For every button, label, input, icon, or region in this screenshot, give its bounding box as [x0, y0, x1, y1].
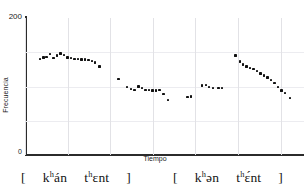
data-point: [59, 52, 61, 54]
transcription-left-word1: khán: [43, 170, 68, 186]
data-point: [263, 74, 265, 76]
vertical-gridline: [281, 18, 282, 155]
data-point: [217, 87, 219, 89]
y-axis-tick-200: 200: [0, 12, 22, 21]
transcription-right-close-bracket: ]: [278, 170, 283, 186]
transcription-right-word2: thɛ́nt: [236, 170, 261, 186]
data-point: [158, 89, 160, 91]
data-point: [155, 89, 157, 91]
data-point: [256, 70, 258, 72]
data-point: [80, 58, 82, 60]
data-point: [245, 65, 247, 67]
data-point: [117, 78, 119, 80]
data-point: [63, 54, 65, 56]
data-point: [289, 97, 291, 99]
data-point: [94, 61, 96, 63]
data-point: [162, 93, 164, 95]
data-point: [66, 56, 68, 58]
data-point: [144, 89, 146, 91]
data-point: [212, 87, 214, 89]
data-point: [234, 54, 236, 56]
data-point: [84, 58, 86, 60]
data-point: [42, 56, 44, 58]
transcription-left-close-bracket: ]: [126, 170, 131, 186]
data-point: [130, 88, 132, 90]
data-point: [167, 99, 169, 101]
data-point: [270, 79, 272, 81]
transcription-right: [ khən thɛ́nt ]: [152, 164, 304, 191]
y-axis-tick-0: 0: [0, 148, 22, 155]
vertical-gridline: [25, 18, 26, 155]
vertical-gridline: [238, 18, 239, 155]
data-point: [91, 60, 93, 62]
data-point: [186, 96, 188, 98]
data-point: [39, 58, 41, 60]
y-axis-title: Frecuencia: [2, 52, 9, 138]
data-point: [280, 89, 282, 91]
vertical-gridline: [110, 18, 111, 155]
data-point: [87, 59, 89, 61]
vertical-gridline: [153, 18, 154, 155]
data-point: [137, 85, 139, 87]
data-point: [73, 58, 75, 60]
transcription-left: [ khán thɛnt ]: [0, 164, 152, 191]
vertical-gridline: [195, 18, 196, 155]
data-point: [77, 58, 79, 60]
transcription-row: [ khán thɛnt ] [ khən thɛ́nt ]: [0, 164, 304, 191]
data-point: [277, 86, 279, 88]
vertical-gridline: [68, 18, 69, 155]
data-point: [148, 89, 150, 91]
data-point: [52, 57, 54, 59]
transcription-right-word1: khən: [195, 170, 220, 186]
data-point: [56, 54, 58, 56]
transcription-left-open-bracket: [: [21, 170, 26, 186]
data-point: [259, 72, 261, 74]
data-point: [151, 89, 153, 91]
data-point: [266, 76, 268, 78]
data-point: [190, 95, 192, 97]
data-point: [133, 89, 135, 91]
data-point: [239, 60, 241, 62]
data-point: [45, 56, 47, 58]
transcription-right-open-bracket: [: [173, 170, 178, 186]
data-point: [70, 57, 72, 59]
x-axis-title: Tiempo: [110, 155, 200, 162]
data-point: [141, 87, 143, 89]
data-point: [49, 53, 51, 55]
data-point: [242, 63, 244, 65]
data-point: [98, 65, 100, 67]
data-point: [249, 67, 251, 69]
data-point: [273, 82, 275, 84]
frequency-time-scatter-figure: Frecuencia 200 0 Tiempo [ khán thɛnt ] […: [0, 0, 304, 191]
data-point: [284, 92, 286, 94]
transcription-left-word2: thɛnt: [84, 170, 109, 186]
plot-area: [25, 18, 304, 155]
data-point: [221, 87, 223, 89]
data-point: [252, 68, 254, 70]
